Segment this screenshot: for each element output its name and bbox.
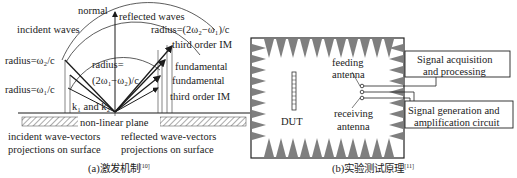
label-fundamental-2: fundamental [172, 75, 225, 86]
label-normal: normal [78, 5, 108, 16]
label-third-order-im-top: third order IM [172, 39, 233, 50]
label-dut: DUT [281, 116, 303, 127]
label-feeding-2: antenna [332, 69, 365, 80]
caption-a: (a)激发机制[10] [88, 162, 150, 175]
label-fundamental-1: fundamental [175, 61, 228, 72]
label-k1-k2: k₁ and k₂ [72, 101, 111, 112]
label-incident-proj-2: projections on surface [8, 144, 101, 155]
label-reflected-proj-1: reflected wave-vectors [121, 131, 216, 142]
label-radius-2w2-w1: radius=(2ω₂−ω₁)/c [151, 24, 230, 36]
label-radius-eq: radius= [92, 59, 124, 70]
figure: normal reflected waves incident waves ra… [0, 0, 517, 178]
label-incident-proj-1: incident wave-vectors [8, 131, 100, 142]
label-radius-w1: radius=ω₁/c [5, 84, 55, 95]
box-acq-line-1: Signal acquisition [417, 54, 493, 65]
label-feeding-1: feeding [332, 57, 364, 68]
caption-b: (b)实验测试原理[11] [332, 162, 414, 175]
box-gen-line-2: amplification circuit [414, 117, 500, 128]
box-gen-line-1: Signal generation and [408, 105, 500, 116]
label-radius-w2: radius=ω₂/c [5, 55, 55, 66]
dut-device [292, 72, 296, 110]
label-third-order-im-bottom: third order IM [170, 91, 231, 102]
label-non-linear-plane: non-linear plane [80, 117, 149, 128]
surface-hatch-right [160, 117, 246, 126]
surface-hatch-left [22, 117, 84, 126]
antennas [360, 84, 364, 100]
reflected-ray-4 [115, 88, 158, 112]
label-receiving-1: receiving [334, 108, 374, 119]
absorbers-left [252, 44, 266, 140]
panel-a-excitation-mechanism: normal reflected waves incident waves ra… [5, 3, 250, 175]
label-reflected-waves: reflected waves [119, 11, 185, 22]
label-receiving-2: antenna [337, 121, 370, 132]
box-acq-line-2: and processing [423, 66, 486, 77]
label-radius-2w1-w2: (2ω₁−ω₂)/c [92, 75, 139, 87]
label-incident-waves: incident waves [17, 24, 80, 35]
panel-b-experimental-setup: DUT feeding antenna receiving antenna Si… [251, 38, 513, 175]
label-reflected-proj-2: projections on surface [121, 144, 214, 155]
